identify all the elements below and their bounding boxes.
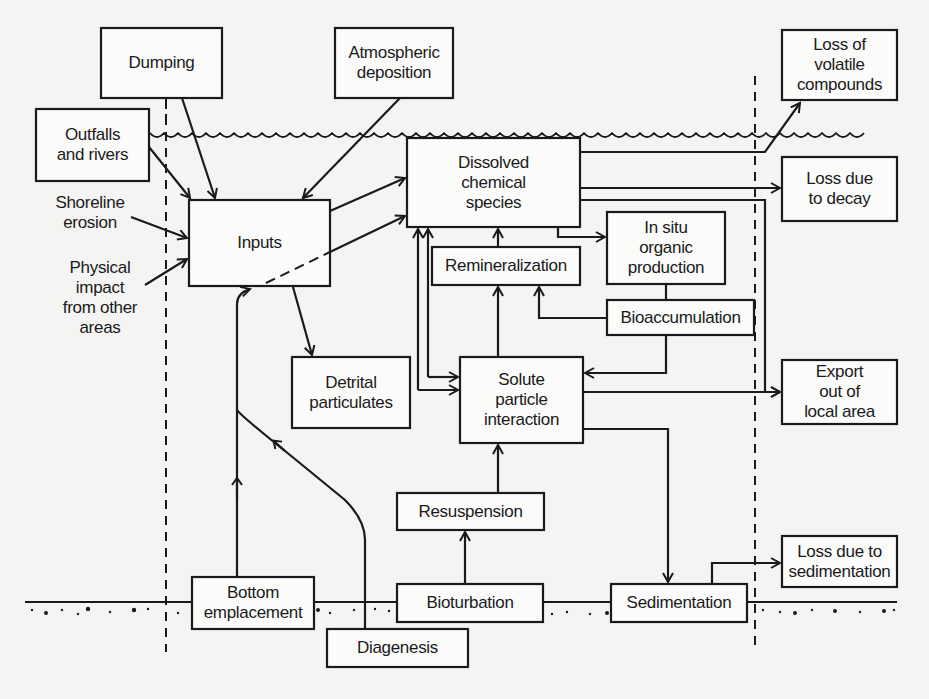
node-export-out-of-local-area: Export out of local area [782,360,897,424]
node-physical-impact: Physical impact from other areas [50,255,150,341]
water-surface-line [150,133,864,137]
node-dumping: Dumping [101,28,222,98]
node-atmospheric-deposition: Atmospheric deposition [335,28,453,98]
arrow-sedimentation-to-loss-sedimentation [712,563,780,584]
node-outfalls-rivers: Outfalls and rivers [36,109,149,181]
node-resuspension: Resuspension [397,493,544,530]
node-detrital-particulates: Detrital particulates [292,357,410,428]
arrow-bioaccumulation-to-solute [585,335,666,373]
node-remineralization: Remineralization [432,247,580,285]
arrow-bioaccumulation-to-remineralization [539,287,607,318]
node-bioaccumulation: Bioaccumulation [607,300,754,335]
node-loss-due-to-sedimentation: Loss due to sedimentation [782,536,897,587]
node-bioturbation: Bioturbation [397,584,543,622]
arrow-dissolved-to-insitu [558,227,605,237]
arrow-solute-to-sedimentation [583,429,668,582]
arrow-inputs-to-detrital [293,287,312,355]
node-dissolved-chemical-species: Dissolved chemical species [407,138,580,227]
arrow-inputs-dashed-cont [330,216,405,252]
node-inputs: Inputs [189,200,330,286]
arrow-diagenesis-mid [275,442,285,451]
arrow-bottom-to-inputs [237,289,250,577]
node-loss-volatile-compounds: Loss of volatile compounds [782,30,897,100]
node-solute-particle-interaction: Solute particle interaction [460,357,583,443]
node-sedimentation: Sedimentation [611,584,747,622]
node-shoreline-erosion: Shoreline erosion [40,190,140,236]
arrow-dumping-to-inputs [182,98,215,198]
marine-pollutant-pathways-diagram: Dumping Atmospheric deposition Outfalls … [0,0,929,699]
arrow-atmospheric-to-inputs [303,98,400,198]
arrow-outfalls-to-inputs [149,147,190,198]
node-in-situ-organic-production: In situ organic production [607,212,725,284]
node-bottom-emplacement: Bottom emplacement [192,577,314,629]
node-diagenesis: Diagenesis [327,629,468,667]
arrow-dissolved-to-loss-volatile [580,103,800,152]
arrow-inputs-to-dissolved [330,178,405,211]
node-loss-due-to-decay: Loss due to decay [782,157,897,221]
